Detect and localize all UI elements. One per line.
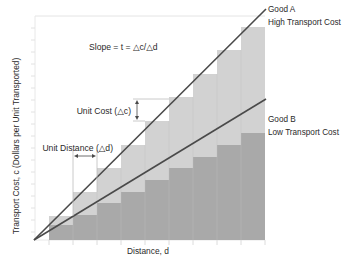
- slope-formula: Slope = t = △c/△d: [89, 42, 158, 52]
- good-a-name: Good A: [268, 5, 296, 14]
- good-b-description: Low Transport Cost: [268, 128, 340, 137]
- y-axis-ticks: [31, 28, 35, 232]
- y-axis-label: Transport Cost, c (Dollars per Unit Tran…: [11, 58, 21, 235]
- good-b-name: Good B: [268, 115, 296, 124]
- good-a-description: High Transport Cost: [268, 18, 342, 27]
- unit-distance-label: Unit Distance (△d): [42, 143, 113, 153]
- x-axis-ticks: [49, 240, 265, 245]
- unit-cost-label: Unit Cost (△c): [77, 106, 131, 116]
- transport-cost-diagram: Slope = t = △c/△d Unit Cost (△c) Unit Di…: [0, 0, 343, 264]
- x-axis-label: Distance, d: [127, 246, 169, 256]
